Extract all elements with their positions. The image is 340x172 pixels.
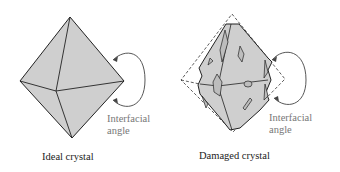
ideal-angle-label-line1: Interfacial	[107, 113, 150, 125]
ideal-angle-label-line2: angle	[107, 125, 150, 137]
ideal-crystal-caption: Ideal crystal	[42, 151, 94, 162]
damaged-octahedron	[198, 24, 272, 130]
damaged-crystal-caption: Damaged crystal	[199, 150, 270, 161]
damaged-angle-label-line1: Interfacial	[269, 112, 312, 124]
damaged-angle-label-line2: angle	[269, 124, 312, 136]
damaged-angle-arrow	[272, 52, 306, 104]
damaged-angle-label: Interfacial angle	[269, 112, 312, 136]
ideal-angle-label: Interfacial angle	[107, 113, 150, 137]
crystal-diagram	[0, 0, 340, 172]
